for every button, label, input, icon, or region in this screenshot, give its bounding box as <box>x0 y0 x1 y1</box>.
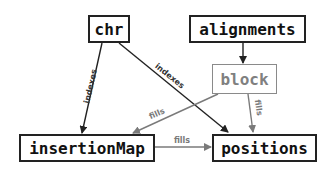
node-positions: positions <box>212 134 317 162</box>
edge-chr-insertionmap: indexes <box>82 43 102 133</box>
edge-label-indexes: indexes <box>153 62 186 91</box>
node-insertionmap: insertionMap <box>19 134 155 162</box>
node-chr: chr <box>88 15 130 43</box>
edge-insertionmap-positions: fills <box>154 136 211 147</box>
edge-label-fills: fills <box>174 136 190 145</box>
edge-label-fills: fills <box>253 99 264 117</box>
edge-block-positions: fills <box>248 94 264 132</box>
node-alignments: alignments <box>189 15 306 43</box>
edge-label-indexes: indexes <box>82 68 99 104</box>
node-block: block <box>212 64 277 94</box>
